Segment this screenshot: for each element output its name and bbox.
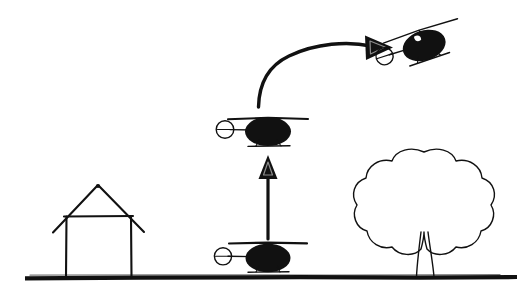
house-wall-top: [64, 216, 133, 217]
hovering-fuselage: [245, 117, 291, 146]
house-roof-right-slope: [99, 186, 145, 233]
forward-fuselage: [399, 24, 450, 66]
forward-tail-rotor-spoke: [377, 54, 392, 59]
tree-group: [354, 149, 495, 277]
helicopter-hovering: [216, 117, 308, 146]
ground-line: [25, 277, 517, 278]
hovering-skid-bar: [248, 146, 290, 147]
arrow-vertical-climb: [259, 155, 278, 239]
curved-arrow-shaft: [259, 43, 372, 107]
tree-trunk-right: [428, 232, 434, 277]
helicopter-grounded: [214, 243, 307, 273]
house-roof-apex-dot: [96, 184, 100, 188]
arrow-forward-transition: [259, 36, 394, 108]
diagram-canvas: [0, 0, 532, 294]
house-roof-left-slope: [53, 186, 98, 233]
tree-canopy-outline: [354, 149, 495, 254]
house-group: [53, 184, 144, 277]
ground-line-texture: [30, 275, 500, 276]
tree-trunk-left: [417, 232, 422, 277]
grounded-fuselage: [246, 244, 291, 273]
house-wall-right: [131, 217, 132, 278]
house-wall-left: [66, 217, 67, 278]
curved-arrow-head: [365, 36, 393, 61]
ground-group: [25, 275, 517, 279]
helicopter-flight-diagram: [0, 0, 532, 294]
